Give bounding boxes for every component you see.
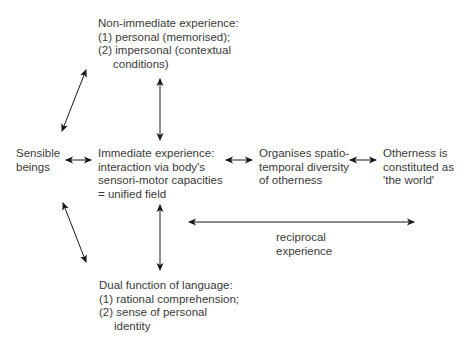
node-text: Immediate experience: bbox=[98, 147, 223, 161]
node-text: interaction via body's bbox=[98, 161, 223, 175]
node-dual-function-language: Dual function of language: (1) rational … bbox=[99, 279, 239, 333]
node-text: Organises spatio- bbox=[259, 147, 349, 161]
node-text: beings bbox=[16, 161, 60, 175]
node-text: (2) impersonal (contextual bbox=[98, 44, 239, 58]
node-text: Otherness is bbox=[383, 147, 454, 161]
node-text: experience bbox=[276, 245, 332, 259]
node-text: 'the world' bbox=[383, 174, 454, 188]
node-text: (2) sense of personal bbox=[99, 306, 239, 320]
node-non-immediate-experience: Non-immediate experience: (1) personal (… bbox=[98, 17, 239, 71]
node-text: Non-immediate experience: bbox=[98, 17, 239, 31]
node-organises-otherness: Organises spatio- temporal diversity of … bbox=[259, 147, 349, 188]
node-text: conditions) bbox=[98, 58, 239, 72]
node-text: identity bbox=[99, 320, 239, 334]
node-text: constituted as bbox=[383, 161, 454, 175]
node-text: sensori-motor capacities bbox=[98, 174, 223, 188]
label-reciprocal-experience: reciprocal experience bbox=[276, 231, 332, 258]
arrow-sensible-to-nonimmediate bbox=[62, 70, 86, 131]
node-immediate-experience: Immediate experience: interaction via bo… bbox=[98, 147, 223, 201]
node-text: = unified field bbox=[98, 188, 223, 202]
arrow-sensible-to-language bbox=[63, 203, 86, 262]
node-text: reciprocal bbox=[276, 231, 332, 245]
node-text: of otherness bbox=[259, 174, 349, 188]
node-text: Dual function of language: bbox=[99, 279, 239, 293]
node-sensible-beings: Sensible beings bbox=[16, 147, 60, 174]
node-otherness-world: Otherness is constituted as 'the world' bbox=[383, 147, 454, 188]
node-text: Sensible bbox=[16, 147, 60, 161]
node-text: (1) rational comprehension; bbox=[99, 293, 239, 307]
node-text: temporal diversity bbox=[259, 161, 349, 175]
node-text: (1) personal (memorised); bbox=[98, 31, 239, 45]
